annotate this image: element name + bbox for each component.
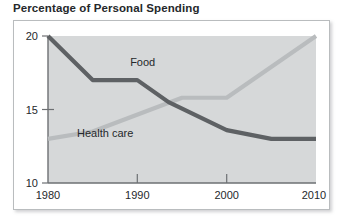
x-tick-label-2010: 2010	[302, 189, 326, 201]
chart-title: Percentage of Personal Spending	[13, 2, 200, 14]
series-label-food: Food	[130, 56, 155, 68]
line-chart-plot: 20 15 10 1980 1990 2000 2010 Food Health…	[14, 21, 329, 209]
x-tick-label-1980: 1980	[36, 189, 60, 201]
chart-frame: 20 15 10 1980 1990 2000 2010 Food Health…	[13, 20, 330, 210]
series-label-health-care: Health care	[77, 127, 133, 139]
y-tick-label-10: 10	[26, 177, 38, 189]
x-tick-label-1990: 1990	[125, 189, 149, 201]
y-tick-label-20: 20	[26, 30, 38, 42]
y-tick-label-15: 15	[26, 104, 38, 116]
x-tick-label-2000: 2000	[214, 189, 238, 201]
